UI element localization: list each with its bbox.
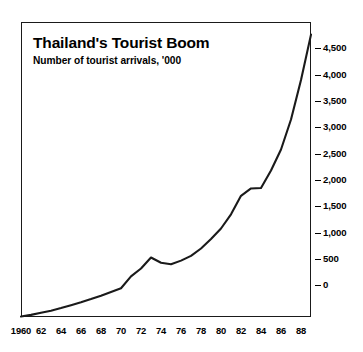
- y-tick-mark: [315, 75, 321, 76]
- chart-figure: Thailand's Tourist Boom Number of touris…: [0, 0, 363, 352]
- y-tick-mark: [315, 285, 321, 286]
- y-tick-label: 3,000: [323, 121, 347, 132]
- y-tick-mark: [315, 180, 321, 181]
- y-tick-label: 1,000: [323, 227, 347, 238]
- data-line-tourist-arrivals: [21, 35, 311, 317]
- y-tick-mark: [315, 206, 321, 207]
- x-tick-label: 88: [286, 325, 316, 336]
- y-tick-mark: [315, 154, 321, 155]
- y-tick-mark: [315, 127, 321, 128]
- y-tick-label: 2,000: [323, 174, 347, 185]
- y-tick-label: 4,500: [323, 42, 347, 53]
- y-tick-label: 2,500: [323, 148, 347, 159]
- y-tick-label: 500: [323, 253, 339, 264]
- y-tick-mark: [315, 233, 321, 234]
- y-tick-label: 3,500: [323, 95, 347, 106]
- y-tick-mark: [315, 101, 321, 102]
- y-tick-mark: [315, 259, 321, 260]
- y-tick-label: 0: [323, 279, 328, 290]
- line-chart-svg: [0, 0, 363, 352]
- y-tick-label: 1,500: [323, 200, 347, 211]
- y-tick-mark: [315, 48, 321, 49]
- y-tick-label: 4,000: [323, 69, 347, 80]
